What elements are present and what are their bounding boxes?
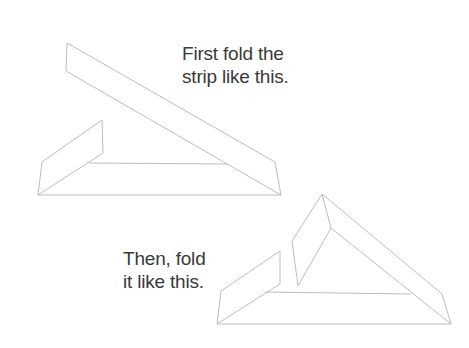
figure-2-base-inner-edge xyxy=(265,292,411,294)
figure-2-left-flap xyxy=(217,251,280,324)
figure-2-caption-line-2: it like this. xyxy=(123,270,206,293)
figure-1-base-inner-edge xyxy=(89,163,228,164)
figure-2-strip-folded-twice xyxy=(217,194,451,324)
figure-2-caption-line-1: Then, fold xyxy=(123,247,206,270)
figure-1-left-flap xyxy=(38,120,103,195)
figure-2-upright-flap xyxy=(292,194,331,286)
figure-1-caption: First fold the strip like this. xyxy=(182,42,289,88)
figure-1-caption-line-1: First fold the xyxy=(182,42,289,65)
figure-1-diagonal-strip-lower-edge xyxy=(66,71,281,195)
figure-2-right-diagonal-strip xyxy=(322,194,451,324)
figure-1-caption-line-2: strip like this. xyxy=(182,65,289,88)
figure-2-caption: Then, fold it like this. xyxy=(123,247,206,293)
figure-2-right-diagonal-inner-edge xyxy=(331,228,451,324)
fold-instructions-diagram: First fold the strip like this. Then, fo… xyxy=(0,0,469,348)
